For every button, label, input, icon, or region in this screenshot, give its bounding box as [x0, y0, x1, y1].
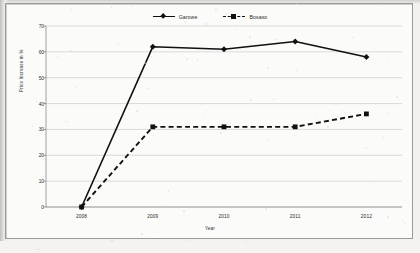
x-tick-2010: 2010 — [218, 214, 229, 219]
scan-speckle — [9, 135, 10, 136]
scan-speckle — [387, 216, 389, 218]
scan-speckle — [69, 0, 70, 1]
scan-speckle — [37, 249, 38, 250]
scan-speckle — [158, 136, 159, 137]
scan-speckle — [128, 109, 129, 110]
scan-speckle — [296, 175, 297, 176]
scan-speckle — [71, 9, 73, 11]
scan-speckle — [363, 58, 364, 59]
scan-speckle — [29, 47, 30, 48]
scan-speckle — [305, 214, 306, 215]
scan-speckle — [327, 126, 329, 128]
scan-speckle — [163, 8, 164, 9]
data-point-garowe-2010 — [221, 46, 227, 52]
scan-speckle — [51, 82, 52, 83]
scan-speckle — [165, 172, 166, 173]
plot-area: Price Increase in % 706050403020100 2008… — [6, 4, 414, 240]
data-series — [79, 39, 370, 210]
scan-speckle — [38, 12, 39, 13]
scan-speckle — [75, 86, 77, 88]
x-tick-2011: 2011 — [290, 214, 301, 219]
series-line-garowe — [82, 42, 367, 207]
scan-speckle — [141, 233, 142, 234]
scan-speckle — [144, 62, 146, 64]
scan-speckle — [132, 5, 133, 6]
scan-speckle — [200, 104, 201, 105]
data-point-bosaso-2011 — [293, 124, 298, 129]
scan-speckle — [57, 56, 58, 57]
data-point-bosaso-2008 — [79, 205, 84, 210]
scan-speckle — [393, 243, 394, 244]
scan-speckle — [135, 90, 136, 91]
scan-speckle — [296, 3, 297, 4]
scan-speckle — [111, 240, 112, 241]
scan-speckle — [136, 110, 138, 112]
scan-speckle — [402, 219, 403, 220]
data-point-bosaso-2009 — [150, 124, 155, 129]
scan-speckle — [183, 210, 184, 211]
scan-speckle — [97, 184, 98, 185]
scan-speckle — [154, 117, 155, 118]
x-tick-2009: 2009 — [147, 214, 158, 219]
scan-speckle — [163, 207, 164, 208]
scan-speckle — [175, 138, 176, 139]
scan-speckle — [150, 147, 151, 148]
scan-speckle — [224, 70, 225, 71]
data-point-garowe-2011 — [292, 39, 298, 45]
scan-speckle — [88, 34, 89, 35]
scan-speckle — [68, 122, 69, 123]
data-point-garowe-2009 — [150, 44, 156, 50]
scan-speckle — [204, 115, 205, 116]
data-point-bosaso-2012 — [364, 112, 369, 117]
scan-speckle — [387, 60, 388, 61]
scan-speckle — [168, 128, 169, 129]
scan-speckle — [311, 33, 312, 34]
x-axis-title: Year — [6, 226, 414, 231]
scan-speckle — [259, 25, 260, 26]
scan-speckle — [267, 67, 268, 68]
scan-speckle — [316, 113, 317, 114]
scanned-page: Garowe Bosaso Price Increase in % 706050… — [0, 0, 420, 253]
chart-canvas — [6, 4, 414, 240]
scan-speckle — [249, 36, 251, 38]
x-tick-2012: 2012 — [361, 214, 372, 219]
scan-speckle — [226, 13, 227, 14]
scan-speckle — [205, 23, 206, 24]
scan-speckle — [70, 50, 71, 51]
scan-speckle — [215, 9, 217, 11]
scan-speckle — [273, 98, 274, 99]
scan-speckle — [396, 96, 398, 98]
scan-speckle — [365, 147, 366, 148]
x-tick-2008: 2008 — [76, 214, 87, 219]
scan-speckle — [220, 132, 221, 133]
scan-speckle — [376, 166, 377, 167]
scan-speckle — [117, 43, 118, 44]
scan-speckle — [158, 232, 159, 233]
scan-speckle — [268, 139, 269, 140]
scan-speckle — [234, 29, 235, 30]
scan-speckle — [374, 143, 375, 144]
scan-speckle — [367, 148, 368, 149]
scan-speckle — [281, 40, 282, 41]
figure-caption-cropped — [8, 246, 408, 253]
data-point-bosaso-2010 — [222, 124, 227, 129]
scan-speckle — [186, 240, 187, 241]
